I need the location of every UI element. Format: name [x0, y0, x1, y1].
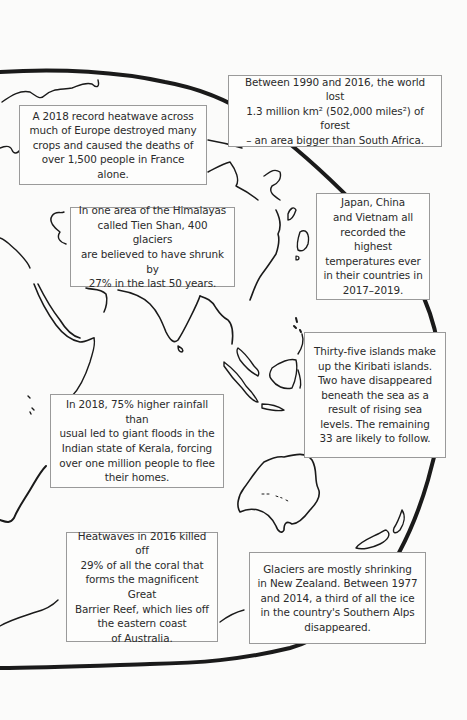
fact-text: Between 1990 and 2016, the world lost 1.… [235, 75, 435, 148]
fact-box-europe-heatwave: A 2018 record heatwave across much of Eu… [19, 105, 207, 185]
fact-text: Heatwaves in 2016 killed off 29% of all … [73, 529, 211, 646]
fact-text: Thirty-five islands make up the Kiribati… [314, 344, 436, 446]
fact-box-great-barrier-reef: Heatwaves in 2016 killed off 29% of all … [66, 532, 218, 642]
fact-text: In 2018, 75% higher rainfall than usual … [57, 397, 217, 485]
fact-box-asia-temperatures: Japan, China and Vietnam all recorded th… [316, 193, 430, 300]
fact-text: In one area of the Himalayas called Tien… [77, 203, 228, 291]
fact-box-kerala-floods: In 2018, 75% higher rainfall than usual … [50, 394, 224, 488]
fact-box-new-zealand-glaciers: Glaciers are mostly shrinking in New Zea… [249, 552, 426, 644]
fact-text: Glaciers are mostly shrinking in New Zea… [257, 562, 417, 635]
fact-text: A 2018 record heatwave across much of Eu… [26, 109, 200, 182]
fact-box-himalaya-glaciers: In one area of the Himalayas called Tien… [70, 207, 235, 287]
fact-text: Japan, China and Vietnam all recorded th… [323, 195, 423, 297]
fact-box-kiribati-islands: Thirty-five islands make up the Kiribati… [304, 332, 446, 458]
fact-box-forest-loss: Between 1990 and 2016, the world lost 1.… [228, 75, 442, 147]
